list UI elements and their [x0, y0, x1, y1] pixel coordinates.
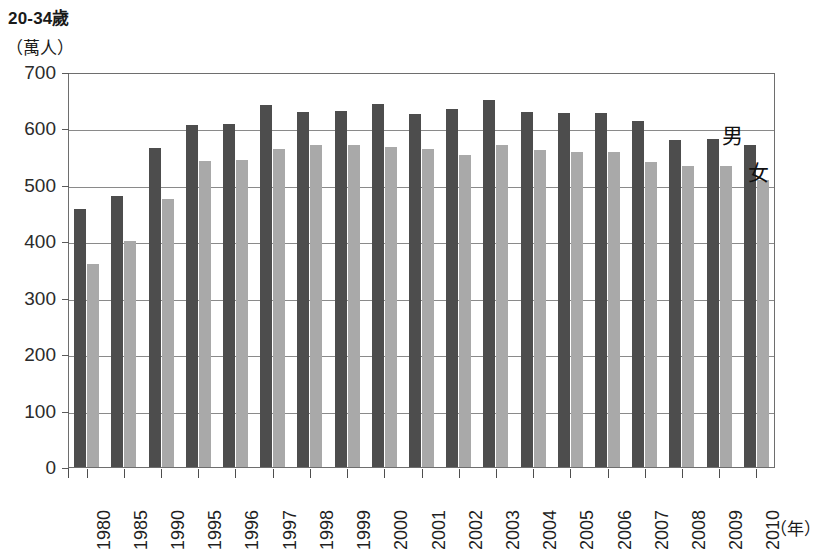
x-axis-tick-mark [235, 469, 236, 478]
bar-series-container [69, 74, 774, 467]
bar-male-2006 [595, 113, 607, 467]
y-axis-tick-mark [62, 242, 69, 243]
bar-male-1998 [297, 112, 309, 468]
y-axis-tick-mark [62, 186, 69, 187]
x-axis-tick-label: 2001 [430, 510, 448, 550]
x-axis-tick-label: 1985 [132, 510, 150, 550]
bar-female-1998 [310, 145, 322, 467]
x-axis-tick-mark [756, 469, 757, 478]
y-axis-tick-label: 700 [0, 63, 56, 82]
y-axis-tick-mark [62, 299, 69, 300]
x-axis-tick-label: 2004 [541, 510, 559, 550]
y-axis-tick-mark [62, 129, 69, 130]
x-axis-tick-mark [161, 469, 162, 478]
x-axis-tick-mark [496, 469, 497, 478]
y-axis-tick-mark [62, 355, 69, 356]
x-axis-tick-label: 2007 [653, 510, 671, 550]
x-axis-tick-label: 2006 [616, 510, 634, 550]
x-axis-tick-label: 1995 [206, 510, 224, 550]
x-axis-tick-mark [533, 469, 534, 478]
x-axis-tick-label: 2000 [392, 510, 410, 550]
x-axis-tick-mark [570, 469, 571, 478]
bar-male-1985 [111, 196, 123, 467]
bar-female-2000 [385, 147, 397, 467]
bar-male-1980 [74, 209, 86, 467]
x-axis-tick-label: 1996 [243, 510, 261, 550]
x-axis-tick-label: 2005 [578, 510, 596, 550]
x-axis-tick-mark [645, 469, 646, 478]
y-axis-tick-label: 500 [0, 176, 56, 195]
y-axis-tick-label: 100 [0, 402, 56, 421]
x-axis-origin-tick [68, 469, 69, 478]
y-axis-tick-label: 200 [0, 345, 56, 364]
bar-female-2010 [757, 180, 769, 467]
bar-male-2004 [521, 112, 533, 468]
bar-female-2007 [645, 162, 657, 467]
x-axis-tick-label: 1998 [318, 510, 336, 550]
bar-male-2010 [744, 145, 756, 467]
bar-female-1999 [348, 145, 360, 467]
bar-male-2002 [446, 109, 458, 467]
x-axis-tick-label: 2008 [690, 510, 708, 550]
bar-female-2003 [496, 145, 508, 467]
bar-female-2004 [534, 150, 546, 467]
x-axis-tick-mark [719, 469, 720, 478]
x-axis-tick-mark [124, 469, 125, 478]
y-axis-tick-label: 0 [0, 458, 56, 477]
x-axis-caption: （年） [770, 515, 821, 540]
x-axis-tick-mark [422, 469, 423, 478]
bar-male-2007 [632, 121, 644, 467]
series-annotation-male: 男 [722, 119, 743, 149]
bar-male-2008 [669, 140, 681, 467]
x-axis-tick-mark [608, 469, 609, 478]
plot-area [68, 73, 775, 468]
bar-male-2001 [409, 114, 421, 467]
bar-male-2000 [372, 104, 384, 467]
x-axis-tick-mark [198, 469, 199, 478]
bar-male-2003 [483, 100, 495, 467]
bar-male-1996 [223, 124, 235, 467]
bar-female-2009 [720, 166, 732, 467]
x-axis-tick-mark [347, 469, 348, 478]
x-axis-tick-mark [459, 469, 460, 478]
bar-female-1997 [273, 149, 285, 467]
y-axis-tick-label: 300 [0, 289, 56, 308]
bar-female-2005 [571, 152, 583, 467]
bar-female-1980 [87, 264, 99, 467]
bar-male-1997 [260, 105, 272, 467]
bar-female-2001 [422, 149, 434, 467]
y-axis-tick-label: 400 [0, 232, 56, 251]
bar-female-1990 [162, 199, 174, 467]
x-axis-tick-label: 1997 [281, 510, 299, 550]
series-annotation-female: 女 [748, 156, 769, 186]
bar-male-2009 [707, 139, 719, 467]
chart-title: 20-34歲 [8, 4, 70, 29]
x-axis-tick-mark [310, 469, 311, 478]
bar-female-2002 [459, 155, 471, 467]
x-axis-tick-label: 2002 [467, 510, 485, 550]
y-axis-tick-mark [62, 73, 69, 74]
bar-female-1996 [236, 160, 248, 467]
bar-female-2008 [682, 166, 694, 467]
y-axis-unit-label: （萬人） [6, 34, 74, 59]
y-axis-tick-mark [62, 412, 69, 413]
x-axis-tick-mark [273, 469, 274, 478]
bar-male-2005 [558, 113, 570, 467]
bar-female-2006 [608, 152, 620, 467]
x-axis-tick-label: 2009 [727, 510, 745, 550]
bar-female-1985 [124, 241, 136, 467]
bar-male-1995 [186, 125, 198, 467]
x-axis-tick-mark [682, 469, 683, 478]
bar-male-1999 [335, 111, 347, 467]
bar-male-1990 [149, 148, 161, 467]
y-axis-tick-label: 600 [0, 119, 56, 138]
x-axis-tick-mark [384, 469, 385, 478]
bar-female-1995 [199, 161, 211, 467]
x-axis-tick-mark [87, 469, 88, 478]
x-axis-tick-label: 1990 [169, 510, 187, 550]
x-axis-tick-label: 2003 [504, 510, 522, 550]
x-axis-tick-label: 1999 [355, 510, 373, 550]
x-axis-tick-label: 1980 [95, 510, 113, 550]
